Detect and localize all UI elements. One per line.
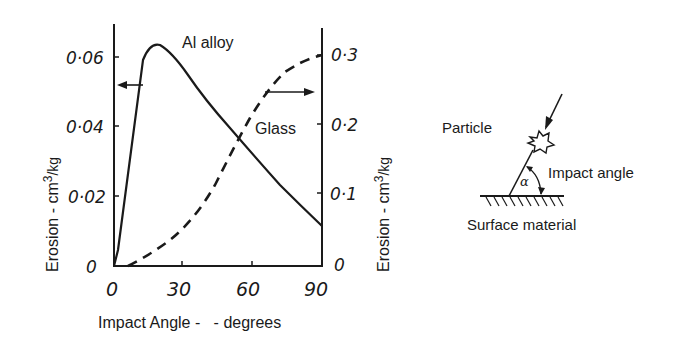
- x-tick-30: 30: [167, 278, 191, 300]
- y-right-tick-01: 0·1: [330, 184, 357, 204]
- surface-material-label: Surface material: [467, 216, 576, 233]
- x-tick-90: 90: [304, 278, 328, 300]
- series-label-glass: Glass: [255, 120, 296, 137]
- erosion-chart: 0·06 0·04 0·02 0 0·3 0·2 0·1 0 0 30 60 9…: [0, 0, 689, 342]
- surface-hatch: [486, 197, 563, 206]
- y-right-axis-label: Erosion - cm3/kg: [372, 157, 392, 272]
- alpha-symbol: α: [520, 174, 529, 189]
- series-label-al-alloy: Al alloy: [182, 34, 234, 51]
- tick-marks: [114, 55, 322, 266]
- y-left-tick-006: 0·06: [66, 48, 104, 68]
- impact-angle-label: Impact angle: [548, 164, 634, 181]
- y-left-tick-002: 0·02: [68, 187, 106, 207]
- y-left-tick-004: 0·04: [66, 117, 104, 137]
- y-right-tick-03: 0·3: [331, 45, 358, 65]
- arrow-right-axis-icon: [265, 88, 315, 96]
- particle-label: Particle: [442, 119, 492, 136]
- angle-arc: [527, 167, 541, 194]
- y-left-axis-label: Erosion - cm3/kg: [41, 157, 61, 272]
- y-right-tick-0: 0: [334, 255, 345, 275]
- impact-diagram: α Particle Impact angle Surface material: [442, 94, 634, 233]
- y-left-tick-0: 0: [86, 257, 97, 277]
- angle-arrowhead-icon: [538, 187, 545, 195]
- x-tick-60: 60: [236, 278, 260, 300]
- al-alloy-curve: [114, 45, 322, 266]
- glass-curve: [128, 55, 322, 266]
- particle-icon: [528, 131, 554, 153]
- x-tick-0: 0: [106, 278, 118, 300]
- x-axis-label: Impact Angle - - degrees: [98, 314, 281, 331]
- trajectory-line: [509, 150, 533, 196]
- y-right-tick-02: 0·2: [331, 115, 358, 135]
- incoming-arrowhead-icon: [545, 116, 553, 130]
